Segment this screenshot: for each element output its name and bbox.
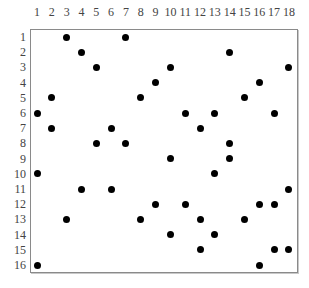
grid-dot bbox=[271, 110, 278, 117]
row-label: 12 bbox=[0, 197, 26, 211]
row-label: 6 bbox=[0, 106, 26, 120]
row-label: 1 bbox=[0, 30, 26, 44]
column-label: 18 bbox=[279, 5, 299, 19]
grid-dot bbox=[122, 34, 129, 41]
grid-dot bbox=[152, 201, 159, 208]
grid-dot bbox=[256, 79, 263, 86]
grid-dot bbox=[226, 140, 233, 147]
row-label: 11 bbox=[0, 182, 26, 196]
grid-dot bbox=[48, 125, 55, 132]
grid-dot bbox=[182, 110, 189, 117]
row-label: 15 bbox=[0, 243, 26, 257]
grid-dot bbox=[78, 49, 85, 56]
grid-dot bbox=[197, 246, 204, 253]
row-label: 4 bbox=[0, 76, 26, 90]
grid-dot bbox=[256, 262, 263, 269]
grid-dot bbox=[34, 170, 41, 177]
row-label: 13 bbox=[0, 212, 26, 226]
grid-dot bbox=[271, 201, 278, 208]
grid-dot bbox=[34, 262, 41, 269]
grid-dot bbox=[226, 49, 233, 56]
grid-dot bbox=[63, 216, 70, 223]
grid-dot bbox=[182, 201, 189, 208]
grid-dot bbox=[93, 140, 100, 147]
row-label: 7 bbox=[0, 121, 26, 135]
row-label: 3 bbox=[0, 60, 26, 74]
grid-dot bbox=[34, 110, 41, 117]
grid-dot bbox=[167, 64, 174, 71]
grid-dot bbox=[241, 216, 248, 223]
grid-dot bbox=[108, 186, 115, 193]
grid-dot bbox=[256, 201, 263, 208]
row-label: 9 bbox=[0, 152, 26, 166]
grid-frame bbox=[30, 29, 298, 273]
grid-dot bbox=[271, 246, 278, 253]
dot-grid-diagram: 123456789101112131415161718 123456789101… bbox=[0, 0, 309, 288]
row-label: 2 bbox=[0, 45, 26, 59]
grid-dot bbox=[78, 186, 85, 193]
row-label: 16 bbox=[0, 258, 26, 272]
grid-dot bbox=[108, 125, 115, 132]
row-label: 8 bbox=[0, 136, 26, 150]
grid-dot bbox=[197, 125, 204, 132]
grid-dot bbox=[167, 231, 174, 238]
grid-dot bbox=[285, 186, 292, 193]
grid-dot bbox=[167, 155, 174, 162]
row-label: 10 bbox=[0, 167, 26, 181]
grid-dot bbox=[93, 64, 100, 71]
row-label: 14 bbox=[0, 228, 26, 242]
row-label: 5 bbox=[0, 91, 26, 105]
grid-dot bbox=[197, 216, 204, 223]
grid-dot bbox=[211, 110, 218, 117]
grid-dot bbox=[63, 34, 70, 41]
